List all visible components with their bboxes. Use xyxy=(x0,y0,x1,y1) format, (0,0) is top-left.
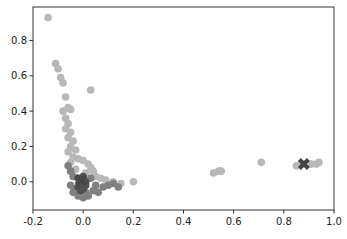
y-tick-label: 0.8 xyxy=(11,35,27,46)
y-axis: 0.00.20.40.60.8 xyxy=(11,35,33,187)
plot-points xyxy=(44,14,323,202)
data-point xyxy=(315,159,323,167)
data-point xyxy=(59,79,67,87)
x-tick-label: 0.2 xyxy=(125,216,141,227)
data-point xyxy=(72,146,80,154)
data-point xyxy=(77,187,85,195)
data-point xyxy=(217,167,225,175)
data-point xyxy=(67,106,75,114)
y-tick-label: 0.4 xyxy=(11,106,27,117)
x-tick-label: 0.0 xyxy=(75,216,91,227)
data-point xyxy=(92,181,100,189)
data-point xyxy=(44,14,52,22)
data-point xyxy=(257,159,265,167)
data-point xyxy=(62,93,70,101)
x-tick-label: 0.4 xyxy=(176,216,192,227)
data-point xyxy=(130,178,138,186)
data-point xyxy=(59,107,67,115)
x-axis: -0.20.00.20.40.60.81.0 xyxy=(23,210,342,227)
y-tick-label: 0.2 xyxy=(11,141,27,152)
x-tick-label: 0.8 xyxy=(276,216,292,227)
data-point xyxy=(87,86,95,94)
x-tick-label: 0.6 xyxy=(226,216,242,227)
data-point xyxy=(114,183,122,191)
data-point xyxy=(54,65,62,73)
y-tick-label: 0.0 xyxy=(11,176,27,187)
series-cluster-light xyxy=(44,14,323,188)
scatter-chart: -0.20.00.20.40.60.81.0 0.00.20.40.60.8 xyxy=(0,0,347,239)
y-tick-label: 0.6 xyxy=(11,70,27,81)
x-tick-label: -0.2 xyxy=(23,216,43,227)
x-tick-label: 1.0 xyxy=(326,216,342,227)
